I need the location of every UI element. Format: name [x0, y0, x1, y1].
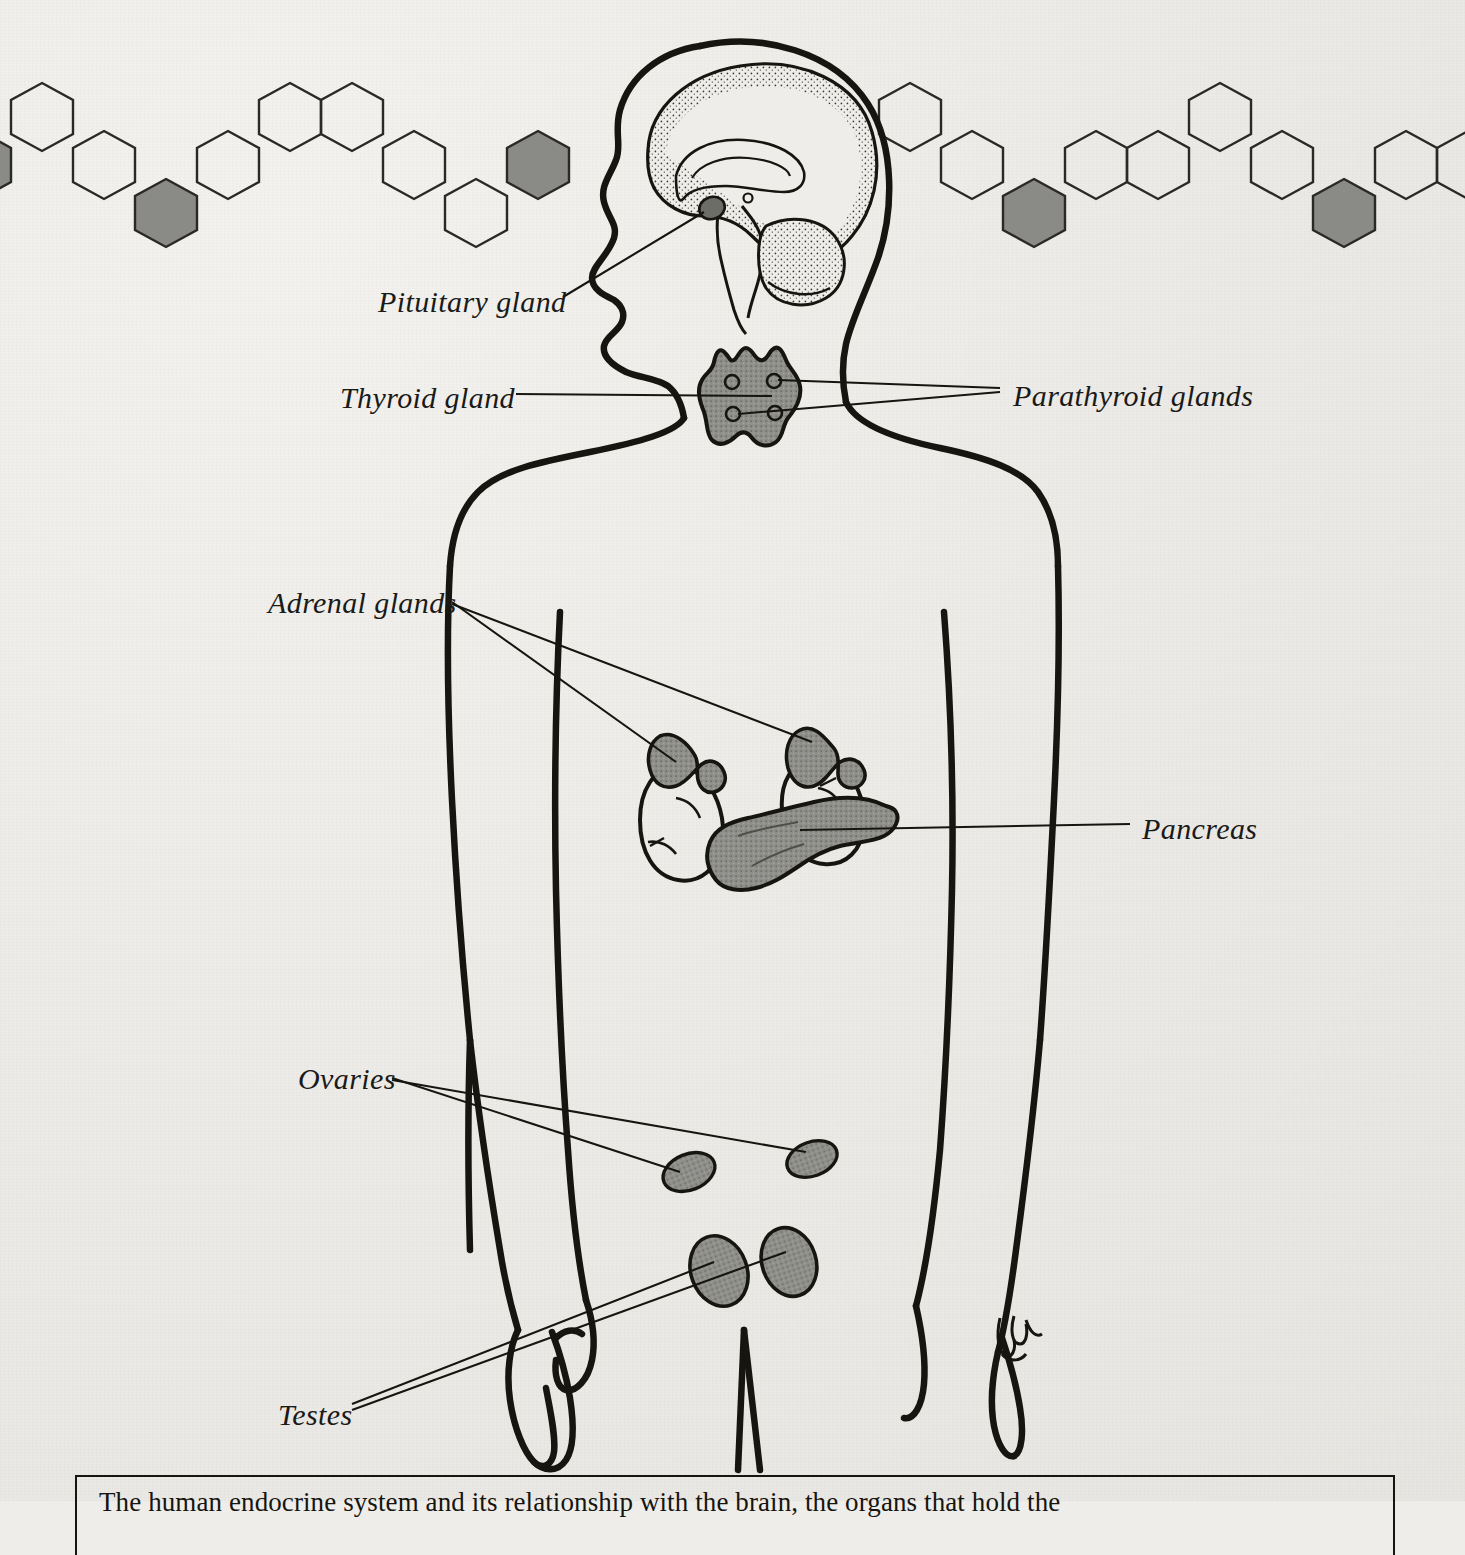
label-testes: Testes [278, 1398, 353, 1432]
caption-box: The human endocrine system and its relat… [75, 1475, 1395, 1555]
label-pituitary-gland: Pituitary gland [378, 285, 567, 319]
label-pancreas: Pancreas [1142, 812, 1257, 846]
pancreas [707, 798, 897, 890]
leader-ovary-right [392, 1080, 806, 1152]
label-thyroid-gland: Thyroid gland [340, 381, 515, 415]
body-outline [448, 42, 1059, 1470]
leader-testis-left [352, 1262, 714, 1404]
leader-adrenal-left [452, 602, 676, 762]
label-parathyroid-glands: Parathyroid glands [1013, 379, 1253, 413]
leader-parathyroid-upper [778, 380, 1000, 388]
ovaries [657, 1134, 842, 1199]
leader-adrenal-right [452, 604, 812, 742]
adrenal-glands [648, 728, 865, 792]
label-ovaries: Ovaries [298, 1062, 396, 1096]
leader-pituitary [563, 212, 704, 297]
caption-line-1: The human endocrine system and its relat… [99, 1485, 1371, 1519]
brain-sagittal-section [648, 64, 877, 334]
leader-ovary-left [392, 1078, 680, 1172]
label-adrenal-glands: Adrenal glands [268, 586, 457, 620]
